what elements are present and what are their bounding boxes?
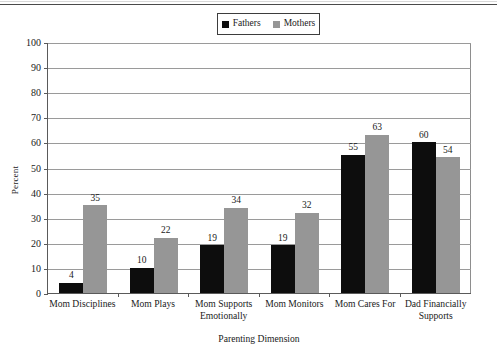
y-tick-label: 20 bbox=[31, 239, 41, 249]
bar-rect bbox=[295, 213, 319, 293]
x-tick-mark bbox=[400, 293, 401, 297]
bar-value-label: 32 bbox=[302, 201, 312, 211]
legend-entry-fathers: Fathers bbox=[222, 19, 261, 29]
bar-value-label: 4 bbox=[69, 271, 74, 281]
category-label-line: Mom Monitors bbox=[260, 298, 329, 310]
bar-group-bars: 1934 bbox=[189, 43, 260, 293]
bar-value-label: 34 bbox=[232, 196, 242, 206]
y-axis-title: Percent bbox=[10, 166, 20, 194]
bar-rect bbox=[200, 245, 224, 293]
bar-rect bbox=[341, 155, 365, 293]
bar-value-label: 19 bbox=[278, 234, 288, 244]
bar-rect bbox=[130, 268, 154, 293]
x-axis-category-labels: Mom DisciplinesMom PlaysMom SupportsEmot… bbox=[47, 298, 471, 321]
bar-group: 435 bbox=[48, 43, 119, 293]
x-axis-category-label: Mom Monitors bbox=[259, 298, 330, 321]
chart-legend: Fathers Mothers bbox=[217, 13, 320, 35]
bar-group: 5563 bbox=[330, 43, 401, 293]
y-tick-label: 50 bbox=[31, 164, 41, 174]
bar-rect bbox=[59, 283, 83, 293]
top-edge-artifact-faint bbox=[0, 1, 497, 2]
bar-value-label: 63 bbox=[373, 123, 383, 133]
category-label-line: Mom Supports bbox=[189, 298, 258, 310]
plot-area-wrapper: 0102030405060708090100 43510221934193255… bbox=[47, 43, 471, 294]
x-axis-category-label: Mom SupportsEmotionally bbox=[188, 298, 259, 321]
y-tick-label: 90 bbox=[31, 63, 41, 73]
bar-rect bbox=[271, 245, 295, 293]
figure-container: Fathers Mothers Percent 0102030405060708… bbox=[0, 0, 497, 360]
plot-area: 0102030405060708090100 43510221934193255… bbox=[47, 43, 471, 294]
y-tick-label: 10 bbox=[31, 264, 41, 274]
x-axis-title: Parenting Dimension bbox=[47, 334, 471, 344]
y-tick-label: 100 bbox=[26, 38, 41, 48]
y-tick-label: 0 bbox=[36, 289, 41, 299]
bar-group-bars: 5563 bbox=[330, 43, 401, 293]
bar-group: 6054 bbox=[401, 43, 472, 293]
bar-rect bbox=[436, 157, 460, 293]
bar-group-bars: 1022 bbox=[119, 43, 190, 293]
bar-rect bbox=[224, 208, 248, 293]
x-axis-category-label: Mom Disciplines bbox=[47, 298, 118, 321]
x-tick-mark bbox=[118, 293, 119, 297]
legend-entry-mothers: Mothers bbox=[273, 19, 316, 29]
x-axis-category-label: Mom Cares For bbox=[330, 298, 401, 321]
bar-group: 1022 bbox=[119, 43, 190, 293]
bar-group: 1932 bbox=[260, 43, 331, 293]
bar-value-label: 10 bbox=[137, 256, 147, 266]
bar-rect bbox=[154, 238, 178, 293]
legend-label-fathers: Fathers bbox=[233, 19, 261, 29]
bar-value-label: 35 bbox=[91, 194, 101, 204]
bar-groups: 43510221934193255636054 bbox=[48, 43, 471, 293]
category-label-line: Emotionally bbox=[189, 310, 258, 322]
y-tick-label: 60 bbox=[31, 138, 41, 148]
bar-value-label: 54 bbox=[443, 146, 453, 156]
category-label-line: Mom Disciplines bbox=[48, 298, 117, 310]
bar-group-bars: 435 bbox=[48, 43, 119, 293]
y-tick-label: 80 bbox=[31, 88, 41, 98]
square-swatch-icon bbox=[273, 21, 280, 28]
bar-group: 1934 bbox=[189, 43, 260, 293]
x-tick-mark bbox=[259, 293, 260, 297]
bar-value-label: 19 bbox=[208, 234, 218, 244]
square-swatch-icon bbox=[222, 21, 229, 28]
bar-group-bars: 6054 bbox=[401, 43, 472, 293]
x-axis-category-label: Dad FinanciallySupports bbox=[400, 298, 471, 321]
x-tick-mark bbox=[329, 293, 330, 297]
y-tick-label: 70 bbox=[31, 113, 41, 123]
bar-rect bbox=[412, 142, 436, 293]
x-axis-category-label: Mom Plays bbox=[118, 298, 189, 321]
bar-group-bars: 1932 bbox=[260, 43, 331, 293]
top-edge-rule bbox=[0, 4, 497, 5]
bar-rect bbox=[365, 135, 389, 293]
bar-value-label: 55 bbox=[349, 143, 359, 153]
bar-rect bbox=[83, 205, 107, 293]
bar-value-label: 22 bbox=[161, 226, 171, 236]
category-label-line: Dad Financially bbox=[401, 298, 470, 310]
bar-value-label: 60 bbox=[419, 131, 429, 141]
x-tick-mark bbox=[188, 293, 189, 297]
y-tick-label: 40 bbox=[31, 189, 41, 199]
legend-label-mothers: Mothers bbox=[284, 19, 316, 29]
category-label-line: Mom Cares For bbox=[331, 298, 400, 310]
y-tick-label: 30 bbox=[31, 214, 41, 224]
y-tick-mark bbox=[44, 294, 48, 295]
category-label-line: Supports bbox=[401, 310, 470, 322]
category-label-line: Mom Plays bbox=[119, 298, 188, 310]
